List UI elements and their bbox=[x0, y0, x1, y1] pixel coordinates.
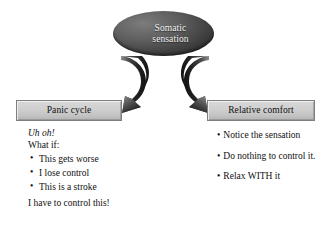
panic-cycle-text-block: Uh oh! What if: This gets worse I lose c… bbox=[28, 128, 168, 210]
panic-cycle-box-label: Panic cycle bbox=[47, 105, 92, 116]
list-item: This gets worse bbox=[28, 154, 168, 166]
relative-comfort-box-label: Relative comfort bbox=[228, 105, 294, 116]
relative-comfort-box: Relative comfort bbox=[207, 100, 315, 121]
arrow-to-relative-comfort-icon bbox=[181, 56, 210, 113]
panic-closing-line: I have to control this! bbox=[28, 198, 168, 210]
panic-cycle-bullet-list: This gets worse I lose control This is a… bbox=[28, 154, 168, 194]
list-item: Notice the sensation bbox=[206, 130, 324, 142]
panic-cycle-box: Panic cycle bbox=[16, 100, 122, 121]
panic-whatif-line: What if: bbox=[28, 140, 168, 152]
list-item: Do nothing to control it. bbox=[206, 151, 324, 163]
somatic-sensation-label: Somatic sensation bbox=[138, 23, 188, 45]
list-item: This is a stroke bbox=[28, 182, 168, 194]
somatic-sensation-node: Somatic sensation bbox=[113, 11, 214, 56]
arrow-group bbox=[112, 55, 218, 123]
arrow-to-panic-cycle-icon bbox=[120, 56, 149, 113]
list-item: I lose control bbox=[28, 168, 168, 180]
diagram-canvas: Somatic sensation bbox=[0, 0, 329, 235]
panic-exclamation-line: Uh oh! bbox=[28, 128, 168, 140]
relative-comfort-text-block: Notice the sensation Do nothing to contr… bbox=[206, 130, 324, 192]
list-item: Relax WITH it bbox=[206, 171, 324, 183]
relative-comfort-bullet-list: Notice the sensation Do nothing to contr… bbox=[206, 130, 324, 183]
